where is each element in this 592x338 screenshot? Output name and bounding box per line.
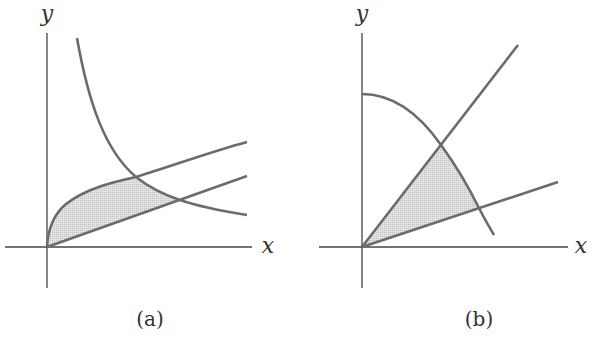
diagram-canvas: y x (a) y x (b) — [0, 0, 592, 338]
caption-b: (b) — [465, 307, 493, 331]
panel-a: y x (a) — [5, 1, 275, 331]
x-axis-label-b: x — [575, 233, 588, 258]
y-axis-label-a: y — [40, 1, 54, 26]
caption-a: (a) — [136, 307, 164, 331]
y-axis-label-b: y — [355, 1, 369, 26]
shaded-region-b — [362, 145, 479, 247]
panel-b: y x (b) — [319, 1, 588, 331]
shaded-region-a — [47, 177, 180, 247]
x-axis-label-a: x — [262, 233, 275, 258]
